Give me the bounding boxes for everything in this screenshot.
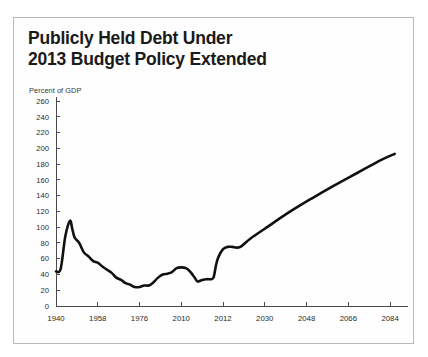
x-tick-label: 2012 [214,314,231,323]
x-tick-label: 2030 [256,314,274,323]
chart-svg: 020406080100120140160180200220240260 194… [14,18,415,345]
y-tick-label: 60 [41,254,49,263]
y-tick-label: 140 [36,191,49,200]
x-tick-label: 2084 [381,314,399,323]
x-tick-label-group: 194019581976201020122030204820662084 [47,314,399,323]
y-tick-label: 80 [41,239,49,248]
y-tick-label: 120 [36,207,49,216]
x-tick-label: 2010 [173,314,191,323]
x-tick-mark-group [56,302,390,306]
figure-frame: Publicly Held Debt Under 2013 Budget Pol… [13,17,414,344]
x-tick-label: 2066 [340,314,357,323]
x-tick-label: 2048 [298,314,315,323]
y-tick-label: 260 [36,97,49,106]
y-tick-label-group: 020406080100120140160180200220240260 [36,97,49,311]
y-tick-label: 220 [36,128,49,137]
debt-series-line [56,154,395,287]
y-tick-label: 20 [41,286,49,295]
y-tick-label: 160 [36,176,49,185]
y-tick-label: 40 [41,270,49,279]
y-tick-label: 200 [36,144,49,153]
y-tick-label: 0 [45,302,49,311]
y-tick-label: 100 [36,223,49,232]
y-tick-label: 240 [36,113,49,122]
x-tick-label: 1958 [89,314,106,323]
plot-area: 020406080100120140160180200220240260 194… [14,18,415,345]
x-tick-label: 1976 [131,314,148,323]
y-tick-label: 180 [36,160,49,169]
y-tick-mark-group [56,101,60,306]
x-tick-label: 1940 [47,314,65,323]
